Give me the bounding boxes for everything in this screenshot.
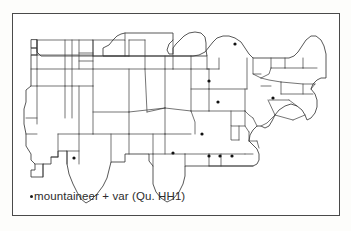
informant-dot <box>271 96 274 99</box>
informant-dot <box>72 156 75 159</box>
page-root: mountaineer + var (Qu. HH1) <box>0 0 351 231</box>
informant-dot <box>200 132 203 135</box>
informant-dot <box>230 154 233 157</box>
informant-dot <box>171 151 174 154</box>
legend-dot-icon <box>30 195 33 198</box>
informant-dots-group <box>72 42 274 159</box>
us-outline <box>24 32 326 203</box>
informant-dot <box>207 79 210 82</box>
us-outline-group <box>24 32 326 203</box>
map-frame <box>12 13 340 216</box>
informant-dot <box>216 100 219 103</box>
state-boundaries-east <box>191 56 317 148</box>
informant-dot <box>233 42 236 45</box>
informant-dot <box>218 154 221 157</box>
dialect-map-svg <box>13 14 339 215</box>
state-boundaries-west <box>26 33 173 177</box>
caption-text: mountaineer + var (Qu. HH1) <box>34 190 185 202</box>
map-caption: mountaineer + var (Qu. HH1) <box>30 190 185 202</box>
informant-dot <box>207 154 210 157</box>
